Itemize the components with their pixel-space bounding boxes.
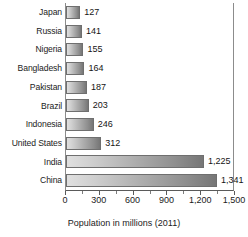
table-row: Russia141 [0, 22, 248, 41]
bar [66, 43, 83, 56]
table-row: United States312 [0, 134, 248, 153]
bar-container: 141 [66, 22, 248, 41]
bar-container: 164 [66, 59, 248, 78]
table-row: China1,341 [0, 171, 248, 190]
table-row: Pakistan187 [0, 78, 248, 97]
bar-value-label: 203 [93, 101, 108, 110]
x-axis: 03006009001,2001,500 [65, 191, 234, 215]
category-label: Nigeria [0, 45, 62, 54]
category-label: China [0, 176, 62, 185]
x-tick-minor [183, 191, 184, 194]
table-row: Brazil203 [0, 97, 248, 116]
bar-value-label: 141 [86, 27, 101, 36]
bar-container: 127 [66, 3, 248, 22]
bar-container: 312 [66, 134, 248, 153]
category-label: Indonesia [0, 120, 62, 129]
x-tick-label: 600 [125, 196, 140, 205]
x-axis-title: Population in millions (2011) [0, 219, 248, 228]
x-tick-minor [217, 191, 218, 194]
bar-value-label: 1,225 [208, 157, 231, 166]
category-label: Bangladesh [0, 64, 62, 73]
category-label: Pakistan [0, 83, 62, 92]
bar-container: 1,341 [66, 171, 248, 190]
bar [66, 81, 87, 94]
table-row: Bangladesh164 [0, 59, 248, 78]
bar [66, 118, 94, 131]
bar-container: 246 [66, 115, 248, 134]
bar-value-label: 164 [88, 64, 103, 73]
bar-value-label: 127 [84, 8, 99, 17]
table-row: Nigeria155 [0, 40, 248, 59]
category-label: Japan [0, 8, 62, 17]
bar-container: 155 [66, 40, 248, 59]
bar [66, 25, 82, 38]
bar [66, 174, 217, 187]
bar [66, 99, 89, 112]
x-tick-minor [116, 191, 117, 194]
bar [66, 62, 84, 75]
x-tick-label: 900 [159, 196, 174, 205]
bar-container: 187 [66, 78, 248, 97]
x-tick-label: 0 [62, 196, 67, 205]
table-row: India1,225 [0, 153, 248, 172]
bar [66, 155, 204, 168]
bar-container: 1,225 [66, 153, 248, 172]
bar-value-label: 1,341 [221, 176, 244, 185]
bar [66, 137, 101, 150]
bar-value-label: 246 [98, 120, 113, 129]
bar-rows: Japan127Russia141Nigeria155Bangladesh164… [0, 3, 248, 190]
bar-value-label: 155 [87, 45, 102, 54]
category-label: United States [0, 139, 62, 148]
x-tick-label: 300 [91, 196, 106, 205]
bar-value-label: 312 [105, 139, 120, 148]
bar-container: 203 [66, 97, 248, 116]
bar-value-label: 187 [91, 83, 106, 92]
x-tick-minor [150, 191, 151, 194]
x-tick-label: 1,200 [189, 196, 212, 205]
table-row: Indonesia246 [0, 115, 248, 134]
category-label: Brazil [0, 102, 62, 111]
population-bar-chart: Japan127Russia141Nigeria155Bangladesh164… [0, 0, 248, 237]
bar [66, 6, 80, 19]
x-tick-minor [82, 191, 83, 194]
table-row: Japan127 [0, 3, 248, 22]
category-label: Russia [0, 27, 62, 36]
category-label: India [0, 158, 62, 167]
x-tick-label: 1,500 [223, 196, 246, 205]
